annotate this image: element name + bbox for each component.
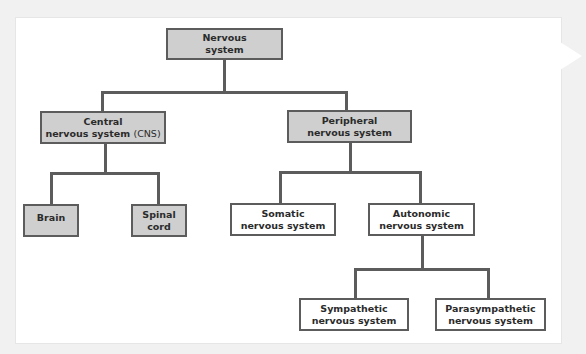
node-central-nervous-system: Centralnervous system (CNS) (40, 111, 166, 144)
node-label: Central (45, 116, 160, 128)
connector (279, 171, 282, 205)
connector (223, 58, 226, 93)
node-brain: Brain (23, 204, 79, 237)
node-label: nervous system (312, 315, 397, 327)
connector (104, 142, 107, 174)
node-label: Spinal (142, 209, 175, 221)
node-label: cord (142, 221, 175, 233)
connector (279, 171, 421, 174)
panel-tab-arrow (560, 42, 582, 70)
node-label: Peripheral (307, 115, 392, 127)
node-label: nervous system (307, 127, 392, 139)
node-label: nervous system (45, 128, 130, 139)
node-parasympathetic-nervous-system: Parasympatheticnervous system (435, 298, 546, 331)
connector (419, 171, 422, 205)
connector (50, 172, 53, 206)
node-label: nervous system (379, 220, 464, 232)
node-somatic-nervous-system: Somaticnervous system (230, 203, 336, 236)
diagram-panel (15, 17, 562, 344)
connector (354, 268, 357, 300)
node-peripheral-nervous-system: Peripheralnervous system (287, 110, 412, 143)
connector (349, 142, 352, 173)
node-label: nervous system (241, 220, 326, 232)
connector (487, 268, 490, 300)
node-label: Autonomic (379, 208, 464, 220)
connector (157, 172, 160, 206)
node-label: Somatic (241, 208, 326, 220)
connector (354, 268, 489, 271)
connector (50, 172, 159, 175)
node-sympathetic-nervous-system: Sympatheticnervous system (299, 298, 409, 331)
node-label: Parasympathetic (445, 303, 535, 315)
node-label: Sympathetic (312, 303, 397, 315)
node-label: Nervous (202, 32, 246, 44)
connector (101, 91, 347, 94)
node-abbr: (CNS) (133, 128, 160, 139)
node-autonomic-nervous-system: Autonomicnervous system (368, 203, 475, 236)
node-spinal-cord: Spinalcord (131, 204, 187, 237)
node-nervous-system: Nervoussystem (166, 28, 283, 60)
connector (421, 235, 424, 270)
node-label: Brain (37, 212, 65, 224)
node-label: nervous system (445, 315, 535, 327)
node-label: system (202, 44, 246, 56)
